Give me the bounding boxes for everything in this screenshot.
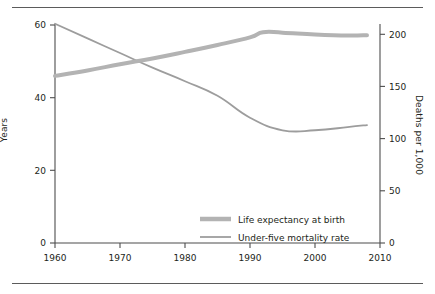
chart-legend: Life expectancy at birth Under-five mort… [200,215,350,243]
y-tick-left-20: 20 [35,166,47,176]
series-line-life-expectancy [55,32,367,76]
y-tick-right-0: 0 [389,238,395,248]
legend-label-under-five-mortality: Under-five mortality rate [238,233,350,243]
y-tick-right-50: 50 [389,186,401,196]
series-line-under-five-mortality [55,24,367,132]
x-tick-2000: 2000 [304,253,327,263]
chart-figure: Years Deaths per 1,000 60 40 20 0 200 [0,0,435,294]
y-tick-right-100: 100 [389,134,406,144]
x-axis-ticks: 1960 1970 1980 1990 2000 2010 [44,243,392,263]
y-tick-left-60: 60 [35,20,47,30]
y-tick-left-0: 0 [40,238,46,248]
x-tick-1980: 1980 [174,253,197,263]
y-axis-left-ticks: 60 40 20 0 [35,20,55,248]
x-tick-2010: 2010 [369,253,392,263]
y-tick-right-200: 200 [389,30,406,40]
x-tick-1970: 1970 [109,253,132,263]
y-tick-left-40: 40 [35,93,47,103]
x-tick-1960: 1960 [44,253,67,263]
legend-label-life-expectancy: Life expectancy at birth [238,215,345,225]
plot-area: 60 40 20 0 200 150 100 50 0 1960 [0,0,435,294]
x-tick-1990: 1990 [239,253,262,263]
y-axis-right-ticks: 200 150 100 50 0 [380,30,406,249]
y-tick-right-150: 150 [389,82,406,92]
